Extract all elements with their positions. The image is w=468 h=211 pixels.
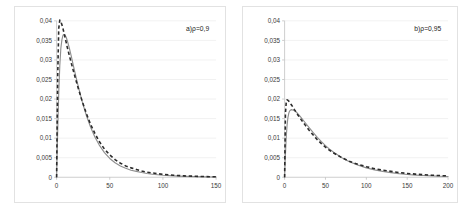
- y-tick-label: 0,025: [36, 76, 52, 83]
- figure-container: 00,0050,010,0150,020,0250,030,0350,04 05…: [0, 0, 468, 211]
- y-tick-label: 0,005: [36, 154, 52, 161]
- chart-a-panel-label: a)ρ=0,9: [186, 25, 209, 33]
- chart-a-yticklabels: 00,0050,010,0150,020,0250,030,0350,04: [36, 17, 52, 180]
- x-tick-label: 150: [402, 182, 413, 189]
- x-tick-label: 100: [158, 182, 169, 189]
- y-tick-label: 0: [277, 174, 281, 181]
- y-tick-label: 0,03: [40, 56, 53, 63]
- chart-b-yticklabels: 00,0050,010,0150,020,0250,030,0350,04: [264, 17, 280, 180]
- y-tick-label: 0,015: [264, 115, 280, 122]
- y-tick-label: 0: [49, 174, 53, 181]
- x-tick-label: 0: [283, 182, 287, 189]
- x-tick-label: 0: [55, 182, 59, 189]
- chart-panel-b: 00,0050,010,0150,020,0250,030,0350,04 05…: [242, 6, 458, 203]
- y-tick-label: 0,04: [40, 17, 53, 24]
- y-tick-label: 0,03: [268, 56, 281, 63]
- x-tick-label: 50: [106, 182, 114, 189]
- y-tick-label: 0,035: [36, 37, 52, 44]
- chart-a-plot: 00,0050,010,0150,020,0250,030,0350,04 05…: [15, 7, 225, 202]
- chart-b-panel-label: b)ρ=0,95: [414, 25, 441, 33]
- y-tick-label: 0,005: [264, 154, 280, 161]
- x-tick-label: 150: [211, 182, 222, 189]
- chart-a-gridlines: [57, 21, 216, 177]
- y-tick-label: 0,015: [36, 115, 52, 122]
- chart-b-gridlines: [285, 21, 448, 177]
- y-tick-label: 0,04: [268, 17, 281, 24]
- chart-b-plot: 00,0050,010,0150,020,0250,030,0350,04 05…: [243, 7, 457, 202]
- y-tick-label: 0,025: [264, 76, 280, 83]
- chart-b-axes: [282, 21, 448, 180]
- y-tick-label: 0,035: [264, 37, 280, 44]
- series-line-solid: [57, 35, 216, 178]
- chart-a-xticklabels: 050100150: [55, 182, 222, 189]
- y-tick-label: 0,02: [40, 95, 53, 102]
- y-tick-label: 0,01: [268, 134, 281, 141]
- y-tick-label: 0,01: [40, 134, 53, 141]
- y-tick-label: 0,02: [268, 95, 281, 102]
- chart-a-axes: [54, 21, 216, 180]
- chart-b-xticklabels: 050100150200: [283, 182, 454, 189]
- x-tick-label: 100: [361, 182, 372, 189]
- chart-panel-a: 00,0050,010,0150,020,0250,030,0350,04 05…: [14, 6, 226, 203]
- x-tick-label: 200: [443, 182, 454, 189]
- x-tick-label: 50: [322, 182, 330, 189]
